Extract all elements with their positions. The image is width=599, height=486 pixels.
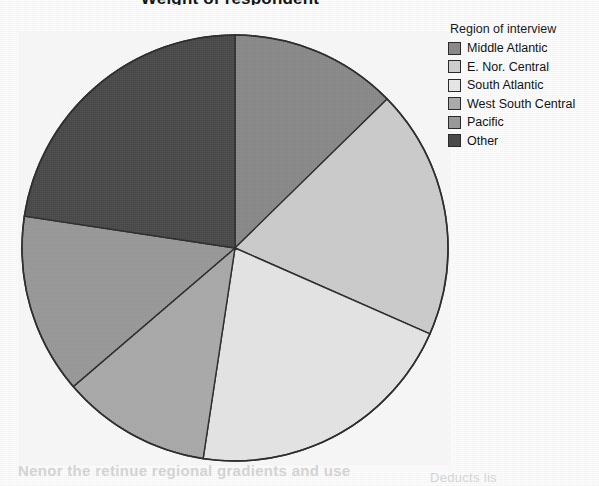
legend-label-south-atlantic: South Atlantic: [467, 79, 543, 92]
pie-texture-overlay: [19, 32, 451, 465]
pie-chart: [19, 32, 451, 465]
page-bleed-through-right: Deducts lis: [430, 470, 497, 485]
chart-title: Weight of respondent: [0, 0, 460, 5]
legend-label-e-nor-central: E. Nor. Central: [467, 61, 549, 74]
legend-label-pacific: Pacific: [467, 116, 504, 129]
legend-title: Region of interview: [450, 22, 575, 36]
legend-item-south-atlantic[interactable]: South Atlantic: [448, 76, 575, 95]
legend-swatch-south-atlantic: [448, 79, 461, 92]
legend-swatch-e-nor-central: [448, 60, 461, 73]
legend-item-e-nor-central[interactable]: E. Nor. Central: [448, 58, 575, 77]
legend-item-other[interactable]: Other: [448, 132, 575, 151]
legend-item-pacific[interactable]: Pacific: [448, 113, 575, 132]
legend-swatch-pacific: [448, 116, 461, 129]
legend-label-other: Other: [467, 135, 498, 148]
legend-label-west-south-central: West South Central: [467, 98, 575, 111]
scanned-page: Weight of respondent Nenor the retinue r…: [0, 0, 599, 486]
legend: Region of interview Middle Atlantic E. N…: [448, 22, 575, 150]
legend-label-middle-atlantic: Middle Atlantic: [467, 42, 548, 55]
legend-swatch-west-south-central: [448, 97, 461, 110]
legend-item-west-south-central[interactable]: West South Central: [448, 95, 575, 114]
legend-item-middle-atlantic[interactable]: Middle Atlantic: [448, 39, 575, 58]
legend-swatch-middle-atlantic: [448, 42, 461, 55]
pie-chart-svg: [19, 32, 451, 465]
legend-swatch-other: [448, 134, 461, 147]
